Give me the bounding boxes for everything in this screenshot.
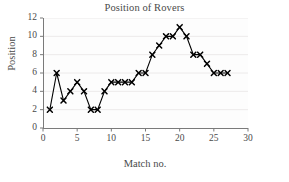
x-tick-label: 30 xyxy=(236,134,260,144)
y-tick-label: 8 xyxy=(11,50,37,60)
y-tick-label: 4 xyxy=(11,86,37,96)
x-tick-label: 25 xyxy=(202,134,226,144)
axis-lines xyxy=(0,0,289,182)
x-tick-label: 5 xyxy=(65,134,89,144)
chart-figure: Position of Rovers Position Match no. 02… xyxy=(0,0,289,182)
y-tick-label: 6 xyxy=(11,68,37,78)
x-tick-label: 15 xyxy=(134,134,158,144)
y-tick-label: 12 xyxy=(11,13,37,23)
y-tick-label: 0 xyxy=(11,123,37,133)
x-tick-label: 20 xyxy=(168,134,192,144)
x-tick-label: 0 xyxy=(31,134,55,144)
y-tick-label: 2 xyxy=(11,105,37,115)
y-tick-label: 10 xyxy=(11,31,37,41)
x-tick-label: 10 xyxy=(99,134,123,144)
